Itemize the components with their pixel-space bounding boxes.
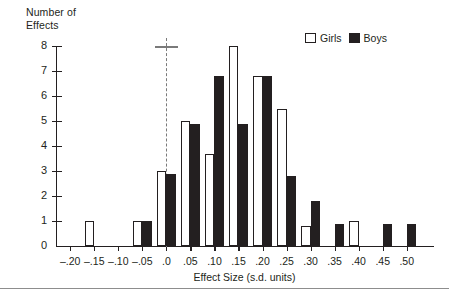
bar-girls-3	[133, 221, 143, 246]
y-tick-label-3: 3	[27, 164, 47, 176]
chart-legend: Girls Boys	[305, 32, 387, 44]
histogram-figure: Number of Effects Girls Boys 012345678 –…	[0, 0, 449, 296]
y-tick-4: 4	[52, 146, 62, 147]
x-tick-13	[383, 246, 384, 251]
legend-label-girls: Girls	[320, 32, 342, 44]
bar-boys-13	[383, 224, 393, 247]
x-tick-7	[238, 246, 239, 251]
legend-swatch-boys-icon	[349, 33, 360, 43]
x-tick-label-14: .50	[387, 255, 427, 267]
y-tick-label-7: 7	[27, 64, 47, 76]
y-tick-label-2: 2	[27, 189, 47, 201]
legend-item-girls: Girls	[305, 32, 342, 44]
legend-label-boys: Boys	[364, 32, 387, 44]
bar-girls-10	[301, 226, 311, 246]
bar-boys-5	[190, 124, 200, 247]
bar-boys-14	[407, 224, 417, 247]
y-tick-label-5: 5	[27, 114, 47, 126]
x-tick-1	[94, 246, 95, 251]
x-tick-8	[263, 246, 264, 251]
bar-boys-4	[166, 174, 176, 247]
y-axis-label: Number of Effects	[26, 6, 76, 31]
bar-girls-9	[277, 109, 287, 247]
x-tick-2	[118, 246, 119, 251]
bar-girls-1	[85, 221, 95, 246]
y-tick-0: 0	[52, 246, 62, 247]
x-tick-10	[311, 246, 312, 251]
y-tick-2: 2	[52, 196, 62, 197]
legend-item-boys: Boys	[349, 32, 387, 44]
y-tick-label-4: 4	[27, 139, 47, 151]
bar-boys-3	[142, 221, 152, 246]
bar-boys-11	[335, 224, 345, 247]
bar-boys-10	[311, 201, 321, 246]
footer-divider	[0, 288, 449, 289]
y-tick-label-1: 1	[27, 214, 47, 226]
reference-line-cap	[155, 46, 178, 48]
y-tick-7: 7	[52, 71, 62, 72]
y-tick-label-0: 0	[27, 239, 47, 251]
plot-area: 012345678 –.20–.15–.10–.05.0.05.10.15.20…	[57, 46, 432, 246]
y-tick-8: 8	[52, 46, 62, 47]
y-tick-1: 1	[52, 221, 62, 222]
y-tick-5: 5	[52, 121, 62, 122]
bar-girls-12	[349, 221, 359, 246]
x-axis-line	[56, 246, 434, 247]
x-axis-label: Effect Size (s.d. units)	[57, 271, 432, 283]
y-tick-3: 3	[52, 171, 62, 172]
bar-boys-6	[214, 76, 224, 246]
bar-girls-5	[181, 121, 191, 246]
x-tick-12	[359, 246, 360, 251]
x-tick-6	[214, 246, 215, 251]
x-tick-14	[407, 246, 408, 251]
x-tick-3	[142, 246, 143, 251]
bar-girls-8	[253, 76, 263, 246]
x-tick-5	[190, 246, 191, 251]
y-tick-label-8: 8	[27, 39, 47, 51]
bar-girls-4	[157, 171, 167, 246]
x-tick-0	[70, 246, 71, 251]
bar-boys-8	[263, 76, 273, 246]
bar-girls-7	[229, 46, 239, 246]
bar-boys-9	[287, 176, 297, 246]
bar-girls-6	[205, 154, 215, 247]
x-tick-9	[287, 246, 288, 251]
x-tick-11	[335, 246, 336, 251]
legend-swatch-girls-icon	[305, 33, 316, 43]
y-tick-label-6: 6	[27, 89, 47, 101]
bar-boys-7	[238, 124, 248, 247]
y-tick-6: 6	[52, 96, 62, 97]
